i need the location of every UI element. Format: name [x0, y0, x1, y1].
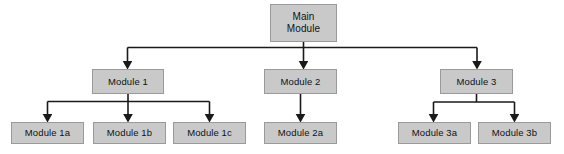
node-module-3a[interactable]: Module 3a — [398, 122, 471, 144]
node-module-1c[interactable]: Module 1c — [173, 122, 246, 144]
node-module-1b[interactable]: Module 1b — [93, 122, 166, 144]
node-module-1[interactable]: Module 1 — [92, 69, 164, 94]
node-module-3b[interactable]: Module 3b — [478, 122, 551, 144]
node-module-1a[interactable]: Module 1a — [11, 122, 84, 144]
module-hierarchy-diagram: Main Module Module 1 Module 2 Module 3 M… — [0, 0, 564, 154]
edge-module1-to-children — [48, 94, 210, 116]
edge-module3-to-children — [434, 94, 515, 116]
edge-main-to-level1 — [128, 42, 478, 63]
node-main-module[interactable]: Main Module — [270, 4, 337, 42]
node-module-3[interactable]: Module 3 — [440, 69, 513, 94]
node-module-2[interactable]: Module 2 — [264, 69, 337, 94]
node-module-2a[interactable]: Module 2a — [264, 122, 337, 144]
